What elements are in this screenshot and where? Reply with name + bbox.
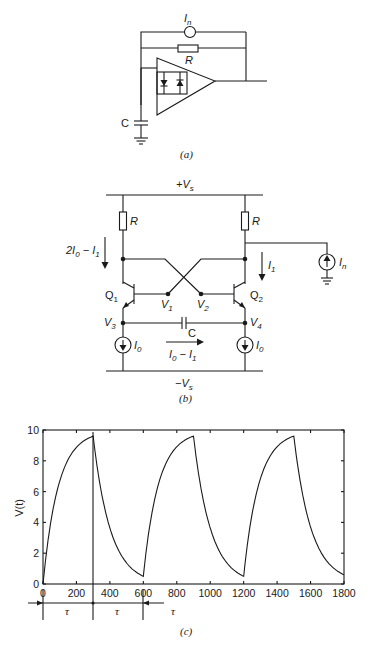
wire-noise-branch xyxy=(245,243,327,254)
transistor-q2-icon xyxy=(234,282,245,308)
label-capacitor-b: C xyxy=(188,327,196,339)
x-tick-label: 1600 xyxy=(299,587,323,599)
label-capacitor: C xyxy=(121,117,129,129)
arrow-down-icon xyxy=(259,274,266,281)
ground-icon-b xyxy=(321,278,333,284)
chart-c: 020040060080010001200140016001800 024681… xyxy=(13,424,356,638)
caption-b: (b) xyxy=(179,392,192,405)
node-v2 xyxy=(199,292,204,297)
y-tick-label: 0 xyxy=(33,578,39,590)
x-tick-label: 400 xyxy=(101,587,119,599)
label-resistor-left: R xyxy=(130,215,138,227)
label-noise-source-b: In xyxy=(339,256,347,271)
x-tick-label: 1000 xyxy=(199,587,223,599)
arrow-down-icon xyxy=(102,262,109,269)
label-noise-source: In xyxy=(184,12,192,27)
label-q2: Q2 xyxy=(250,289,264,304)
x-tick-label: 200 xyxy=(68,587,86,599)
x-tick-label: 1200 xyxy=(232,587,256,599)
label-supply-positive: +Vs xyxy=(176,178,194,193)
circuit-b: +Vs −Vs R R 2I0 − I1 I1 In Q1 Q2 V1 V2 V… xyxy=(65,178,347,405)
caption-c: (c) xyxy=(180,625,193,638)
y-tick-label: 4 xyxy=(33,516,39,528)
arrow-left-icon xyxy=(143,601,149,606)
label-v4: V4 xyxy=(250,316,262,331)
arrow-right-icon xyxy=(197,339,204,346)
label-current-right: I1 xyxy=(268,259,276,274)
transistor-q1-icon xyxy=(123,282,134,308)
ground-icon xyxy=(134,138,148,144)
resistor-right-icon xyxy=(242,212,249,230)
y-tick-label: 2 xyxy=(33,547,39,559)
tau-midpoint xyxy=(91,601,94,604)
label-cap-current: I0 − I1 xyxy=(169,348,197,363)
x-tick-label: 800 xyxy=(168,587,186,599)
tau-label-3: τ xyxy=(171,605,176,617)
waveform-line xyxy=(43,436,344,584)
label-v3: V3 xyxy=(104,316,116,331)
label-source-right: I0 xyxy=(256,339,264,354)
wire-cross-left-to-v2 xyxy=(123,259,201,294)
y-axis-label: V(t) xyxy=(13,499,25,517)
label-v2: V2 xyxy=(197,298,209,313)
plot-frame xyxy=(43,430,344,584)
noise-current-source-icon xyxy=(185,27,196,38)
label-resistor: R xyxy=(185,54,193,66)
y-tick-label: 10 xyxy=(27,424,39,436)
y-tick-label: 8 xyxy=(33,455,39,467)
arrow-right-icon xyxy=(37,601,43,606)
y-tick-label: 6 xyxy=(33,486,39,498)
x-axis-ticks: 020040060080010001200140016001800 xyxy=(40,430,356,599)
label-v1: V1 xyxy=(161,298,173,313)
figure-canvas: In R C (a) xyxy=(0,0,371,651)
circuit-a: In R C (a) xyxy=(121,12,267,161)
x-tick-label: 1800 xyxy=(332,587,356,599)
resistor-left-icon xyxy=(120,212,127,230)
tau-label-2: τ xyxy=(115,605,120,617)
label-q1: Q1 xyxy=(105,289,119,304)
label-supply-negative: −Vs xyxy=(175,377,193,392)
node-v1 xyxy=(166,292,171,297)
caption-a: (a) xyxy=(180,148,193,161)
label-resistor-right: R xyxy=(252,215,260,227)
x-tick-label: 1400 xyxy=(265,587,289,599)
label-current-left: 2I0 − I1 xyxy=(65,244,100,259)
label-source-left: I0 xyxy=(134,339,142,354)
resistor-icon xyxy=(178,45,198,52)
tau-label-1: τ xyxy=(65,605,70,617)
